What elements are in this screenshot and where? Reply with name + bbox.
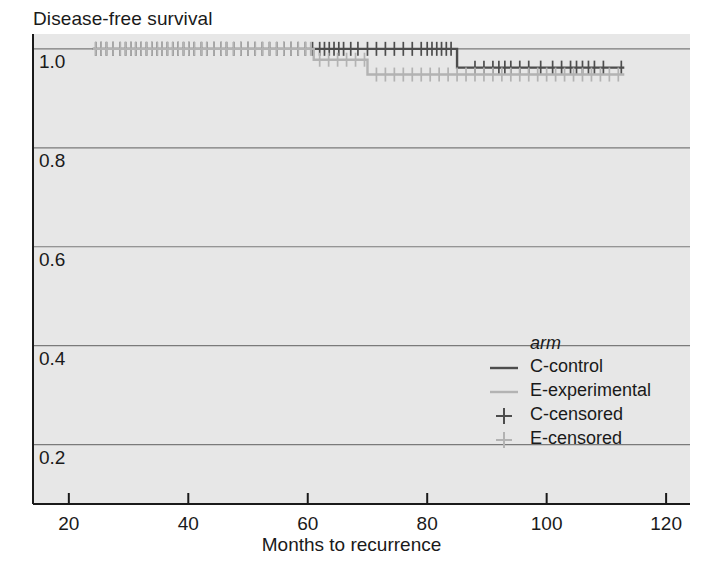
legend-label-e-censored: E-censored bbox=[530, 428, 622, 449]
y-tick-label-2: 0.6 bbox=[39, 249, 65, 271]
y-tick-label-3: 0.4 bbox=[39, 348, 65, 370]
x-tick-label-1: 40 bbox=[178, 513, 199, 535]
x-tick-label-2: 60 bbox=[297, 513, 318, 535]
x-tick-label-0: 20 bbox=[58, 513, 79, 535]
legend-label-e-experimental: E-experimental bbox=[530, 380, 651, 401]
x-tick-label-4: 100 bbox=[531, 513, 563, 535]
x-tick-label-3: 80 bbox=[417, 513, 438, 535]
legend-label-c-censored: C-censored bbox=[530, 404, 623, 425]
legend-title: arm bbox=[530, 333, 561, 354]
y-tick-label-0: 1.0 bbox=[39, 51, 65, 73]
legend-label-c-control: C-control bbox=[530, 356, 603, 377]
survival-plot-canvas bbox=[0, 0, 703, 572]
x-tick-label-5: 120 bbox=[650, 513, 682, 535]
x-axis-title: Months to recurrence bbox=[0, 534, 703, 556]
y-tick-label-4: 0.2 bbox=[39, 447, 65, 469]
y-tick-label-1: 0.8 bbox=[39, 150, 65, 172]
chart-figure: Disease-free survival Months to recurren… bbox=[0, 0, 703, 572]
